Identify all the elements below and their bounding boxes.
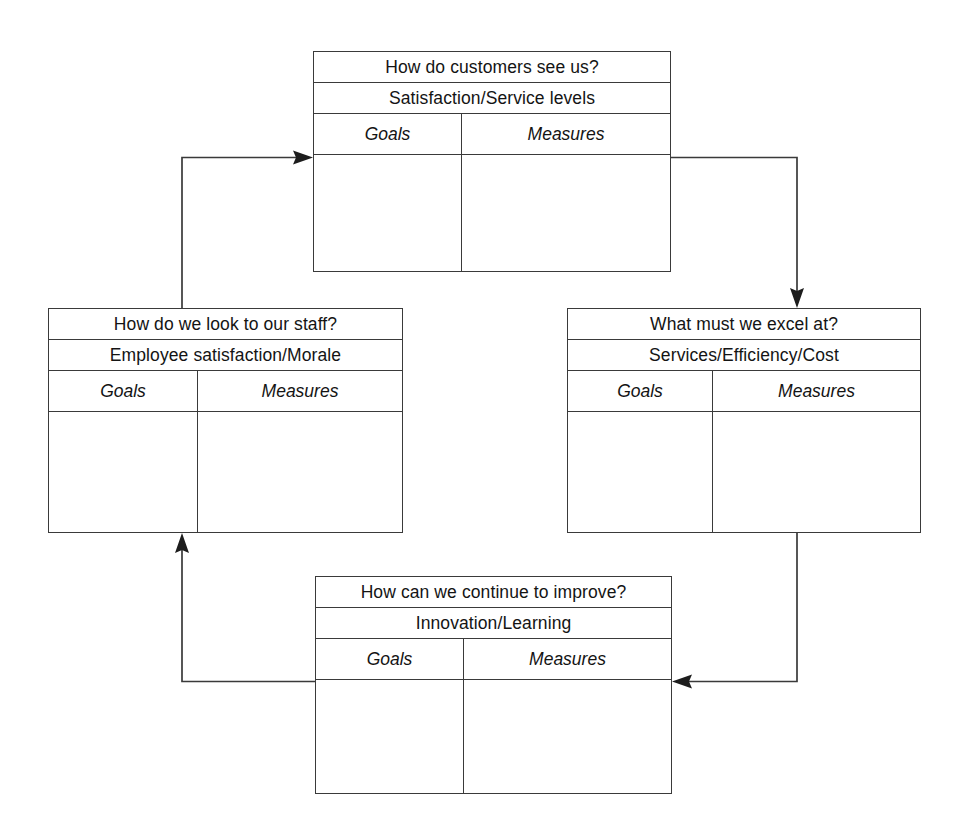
scorecard-internal-process[interactable]: What must we excel at? Services/Efficien… [567, 308, 921, 533]
entry-area [568, 412, 920, 532]
perspective-theme: Innovation/Learning [316, 608, 671, 639]
goals-cell[interactable] [568, 412, 713, 532]
measures-cell[interactable] [462, 155, 670, 271]
diagram-canvas: How do customers see us? Satisfaction/Se… [0, 0, 966, 836]
column-header-goals: Goals [49, 371, 198, 411]
column-headers: Goals Measures [316, 639, 671, 680]
arrowhead-right-icon [293, 151, 313, 165]
column-header-measures: Measures [198, 371, 402, 411]
scorecard-staff[interactable]: How do we look to our staff? Employee sa… [48, 308, 403, 533]
column-headers: Goals Measures [49, 371, 402, 412]
scorecard-innovation-learning[interactable]: How can we continue to improve? Innovati… [315, 576, 672, 794]
perspective-question: How can we continue to improve? [316, 577, 671, 608]
column-header-goals: Goals [314, 114, 462, 154]
entry-area [314, 155, 670, 271]
entry-area [49, 412, 402, 532]
column-header-goals: Goals [568, 371, 713, 411]
scorecard-customer[interactable]: How do customers see us? Satisfaction/Se… [313, 51, 671, 272]
column-headers: Goals Measures [314, 114, 670, 155]
measures-cell[interactable] [198, 412, 402, 532]
column-header-goals: Goals [316, 639, 464, 679]
column-header-measures: Measures [713, 371, 920, 411]
arrowhead-down-icon [790, 288, 804, 308]
arrowhead-up-icon [175, 533, 189, 553]
measures-cell[interactable] [713, 412, 920, 532]
perspective-theme: Employee satisfaction/Morale [49, 340, 402, 371]
column-header-measures: Measures [462, 114, 670, 154]
column-header-measures: Measures [464, 639, 671, 679]
perspective-question: How do we look to our staff? [49, 309, 402, 340]
goals-cell[interactable] [316, 680, 464, 793]
goals-cell[interactable] [314, 155, 462, 271]
perspective-theme: Satisfaction/Service levels [314, 83, 670, 114]
arrowhead-left-icon [672, 675, 692, 689]
column-headers: Goals Measures [568, 371, 920, 412]
perspective-question: What must we excel at? [568, 309, 920, 340]
perspective-theme: Services/Efficiency/Cost [568, 340, 920, 371]
measures-cell[interactable] [464, 680, 671, 793]
goals-cell[interactable] [49, 412, 198, 532]
perspective-question: How do customers see us? [314, 52, 670, 83]
entry-area [316, 680, 671, 793]
